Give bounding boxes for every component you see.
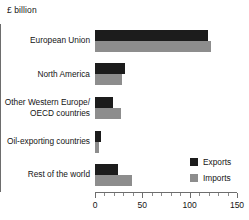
x-tick-major [190,193,191,198]
x-tick-minor [123,193,124,196]
category-label-line: Oil-exporting countries [0,136,90,147]
bar-exports [95,164,118,175]
x-axis-line [95,192,237,193]
x-tick-minor [171,193,172,196]
x-tick-minor [199,193,200,196]
bar-row [95,97,237,108]
bar-exports [95,30,208,41]
x-tick-label: 100 [177,200,203,210]
category-label: North America [0,69,90,80]
bar-group [95,30,237,52]
bar-exports [95,97,113,108]
x-tick-minor [218,193,219,196]
axis-unit-label: £ billion [7,5,37,15]
bar-imports [95,108,121,119]
bar-row [95,131,237,142]
bar-exports [95,63,125,74]
x-tick-label: 50 [129,200,155,210]
bar-row [95,108,237,119]
bar-imports [95,142,99,153]
bar-row [95,164,237,175]
category-label: Other Western Europe/OECD countries [0,97,90,118]
category-label-line: Rest of the world [0,169,90,180]
bar-row [95,142,237,153]
x-tick-minor [228,193,229,196]
bar-group [95,63,237,85]
category-label: European Union [0,35,90,46]
x-tick-minor [152,193,153,196]
x-tick-minor [209,193,210,196]
x-tick-minor [161,193,162,196]
x-tick-minor [104,193,105,196]
category-label-line: North America [0,69,90,80]
category-label: Oil-exporting countries [0,136,90,147]
category-label-line: European Union [0,35,90,46]
x-tick-minor [133,193,134,196]
x-tick-major [95,193,96,198]
bar-group [95,164,237,186]
bar-row [95,175,237,186]
bar-group [95,97,237,119]
category-label-line: Other Western Europe/ [0,97,90,108]
bar-imports [95,175,132,186]
x-tick-major [142,193,143,198]
x-tick-label: 0 [82,200,108,210]
x-tick-label: 150 [224,200,249,210]
bar-imports [95,74,122,85]
bar-chart: £ billion European UnionNorth AmericaOth… [0,0,249,220]
bar-row [95,30,237,41]
bar-row [95,63,237,74]
category-label: Rest of the world [0,169,90,180]
x-tick-major [237,193,238,198]
category-label-line: OECD countries [0,108,90,119]
x-tick-minor [114,193,115,196]
bar-group [95,131,237,153]
x-tick-minor [180,193,181,196]
bar-row [95,74,237,85]
bar-imports [95,41,211,52]
bar-exports [95,131,101,142]
bar-row [95,41,237,52]
